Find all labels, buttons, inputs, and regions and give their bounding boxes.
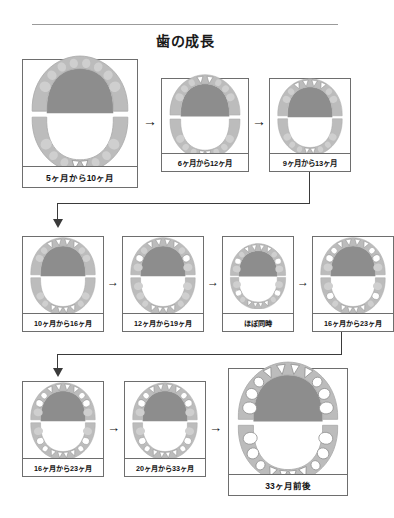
connector-row1-to-row2-vertical-left [57, 203, 58, 220]
arch-lo [128, 275, 198, 316]
upper-arch [228, 243, 288, 278]
connector-row2-to-row3-vertical-right [341, 332, 342, 355]
arch-lo [318, 275, 388, 316]
lower-arch [275, 116, 345, 157]
flow-arrow-7: → [209, 421, 222, 434]
stage-panel-p9[interactable]: 20ヶ月から33ヶ月 [124, 381, 206, 477]
arch-up [234, 361, 342, 424]
stage-caption-p10: 33ヶ月前後 [229, 474, 347, 495]
arch-up [28, 382, 98, 423]
mouth-diagram-p8 [23, 382, 103, 460]
arch-up [128, 237, 198, 278]
stage-caption-p2: 6ヶ月から12ヶ月 [162, 153, 248, 171]
connector-row2-to-row3-horizontal [57, 354, 342, 355]
stage-panel-p1[interactable]: 5ヶ月から10ヶ月 [22, 59, 138, 188]
stage-panel-p3[interactable]: 9ヶ月から13ヶ月 [269, 78, 351, 172]
connector-row1-to-row2-vertical-right [309, 172, 310, 204]
stage-caption-p5: 12ヶ月から19ヶ月 [123, 313, 203, 331]
mouth-diagram-p6 [223, 237, 293, 315]
arch-lo [275, 116, 345, 157]
arch-up [130, 382, 200, 423]
mouth-diagram-p7 [313, 237, 393, 315]
mouth-diagram-p1 [23, 60, 137, 168]
stage-panel-p4[interactable]: 10ヶ月から16ヶ月 [22, 236, 104, 332]
mouth-diagram-p3 [270, 79, 350, 155]
lower-arch [128, 275, 198, 316]
mouth-diagram-p10 [229, 369, 347, 476]
upper-arch [128, 237, 198, 278]
arch-lo [28, 275, 98, 316]
connector-arrowhead-row3 [53, 368, 63, 377]
mouth-diagram-p9 [125, 382, 205, 460]
arch-lo [28, 113, 132, 173]
arch-up [275, 78, 345, 119]
upper-arch [28, 55, 132, 115]
arch-lo [130, 420, 200, 461]
header-divider [32, 24, 338, 25]
connector-row1-to-row2-horizontal [57, 203, 310, 204]
upper-arch [28, 237, 98, 278]
lower-arch [228, 275, 288, 310]
flow-arrow-1: → [143, 114, 157, 128]
upper-arch [234, 361, 342, 424]
flow-arrow-2: → [252, 114, 266, 128]
arch-lo [28, 420, 98, 461]
stage-caption-p8: 16ヶ月から23ヶ月 [23, 458, 103, 476]
flow-arrow-4: → [207, 276, 219, 288]
arch-lo [228, 275, 288, 310]
mouth-diagram-p2 [162, 79, 248, 155]
stage-caption-p9: 20ヶ月から33ヶ月 [125, 458, 205, 476]
arch-up [28, 55, 132, 115]
stage-caption-p6: ほぼ同時 [223, 313, 293, 331]
mouth-diagram-p4 [23, 237, 103, 315]
connector-row2-to-row3-vertical-left [57, 354, 58, 369]
stage-panel-p10[interactable]: 33ヶ月前後 [228, 368, 348, 496]
arch-up [228, 243, 288, 278]
upper-arch [318, 237, 388, 278]
stage-caption-p7: 16ヶ月から23ヶ月 [313, 313, 393, 331]
mouth-diagram-p5 [123, 237, 203, 315]
upper-arch [130, 382, 200, 423]
page-title: 歯の成長 [0, 30, 370, 50]
stage-caption-p1: 5ヶ月から10ヶ月 [23, 166, 137, 187]
stage-panel-p2[interactable]: 6ヶ月から12ヶ月 [161, 78, 249, 172]
connector-arrowhead-row2 [53, 219, 63, 228]
stage-panel-p8[interactable]: 16ヶ月から23ヶ月 [22, 381, 104, 477]
lower-arch [130, 420, 200, 461]
upper-arch [28, 382, 98, 423]
upper-arch [275, 78, 345, 119]
upper-arch [167, 74, 243, 118]
stage-panel-p6[interactable]: ほぼ同時 [222, 236, 294, 332]
flow-arrow-3: → [107, 276, 119, 288]
stage-panel-p7[interactable]: 16ヶ月から23ヶ月 [312, 236, 394, 332]
arch-up [318, 237, 388, 278]
stage-caption-p3: 9ヶ月から13ヶ月 [270, 153, 350, 171]
stage-panel-p5[interactable]: 12ヶ月から19ヶ月 [122, 236, 204, 332]
lower-arch [28, 113, 132, 173]
lower-arch [28, 275, 98, 316]
lower-arch [28, 420, 98, 461]
arch-up [167, 74, 243, 118]
stage-caption-p4: 10ヶ月から16ヶ月 [23, 313, 103, 331]
flow-arrow-6: → [107, 421, 120, 434]
arch-up [28, 237, 98, 278]
lower-arch [318, 275, 388, 316]
flow-arrow-5: → [297, 276, 309, 288]
